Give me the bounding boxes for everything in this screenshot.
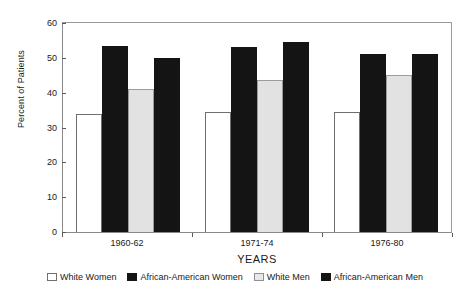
- legend-label: White Women: [60, 272, 116, 282]
- y-axis-tick-label: 30: [47, 123, 63, 133]
- bar: [360, 54, 386, 232]
- legend-label: White Men: [267, 272, 310, 282]
- y-axis-tick-label: 40: [47, 88, 63, 98]
- legend-swatch: [47, 273, 57, 281]
- legend-item: African-American Women: [127, 272, 242, 282]
- x-axis-tick-labels: 1960-621971-741976-80: [62, 238, 452, 248]
- x-axis-tick-mark: [322, 233, 323, 237]
- bar: [205, 112, 231, 232]
- chart-figure: Percent of Patients 0102030405060 1960-6…: [0, 0, 470, 291]
- bar-group: [76, 23, 180, 232]
- bar-group: [334, 23, 438, 232]
- x-axis-tick-mark: [452, 233, 453, 237]
- y-axis-title: Percent of Patients: [16, 24, 26, 154]
- bar: [283, 42, 309, 232]
- bar: [334, 112, 360, 232]
- y-axis-tick-label: 20: [47, 157, 63, 167]
- bar: [412, 54, 438, 232]
- bar: [128, 89, 154, 232]
- y-axis-tick-label: 50: [47, 53, 63, 63]
- legend-item: African-American Men: [321, 272, 423, 282]
- bar: [102, 46, 128, 232]
- plot-area: 0102030405060: [62, 22, 452, 233]
- legend-swatch: [254, 273, 264, 281]
- bar: [257, 80, 283, 232]
- x-axis-title: YEARS: [62, 253, 452, 265]
- bar: [231, 47, 257, 232]
- legend-label: African-American Men: [334, 272, 423, 282]
- chart-legend: White WomenAfrican-American WomenWhite M…: [0, 272, 470, 282]
- bar-groups: [63, 23, 451, 232]
- x-axis-tick-label: 1971-74: [240, 238, 273, 248]
- y-axis-tick-label: 60: [47, 18, 63, 28]
- legend-item: White Men: [254, 272, 310, 282]
- bar: [76, 114, 102, 232]
- legend-swatch: [321, 273, 331, 281]
- x-axis-tick-label: 1976-80: [370, 238, 403, 248]
- legend-item: White Women: [47, 272, 116, 282]
- x-axis-tick-label: 1960-62: [110, 238, 143, 248]
- bar-group: [205, 23, 309, 232]
- bar: [154, 58, 180, 232]
- y-axis-tick-label: 10: [47, 192, 63, 202]
- bar: [386, 75, 412, 232]
- legend-swatch: [127, 273, 137, 281]
- x-axis-tick-mark: [62, 233, 63, 237]
- x-axis-tick-mark: [192, 233, 193, 237]
- legend-label: African-American Women: [140, 272, 242, 282]
